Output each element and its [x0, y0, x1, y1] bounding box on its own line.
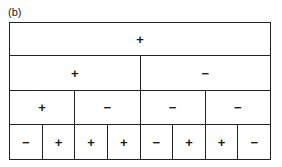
sign-tree-table: + + − + − − − − + + + − + + −: [9, 22, 271, 160]
level-2-cell: −: [75, 91, 140, 124]
level-3-cell: −: [238, 125, 270, 159]
level-3-cell: +: [43, 125, 76, 159]
level-2-cell: +: [10, 91, 75, 124]
level-3-cell: −: [141, 125, 174, 159]
level-2-row: + − − −: [10, 91, 270, 125]
level-3-cell: +: [206, 125, 239, 159]
level-3-cell: −: [10, 125, 43, 159]
figure-label: (b): [8, 6, 21, 18]
level-0-cell: +: [10, 23, 270, 55]
level-2-cell: −: [141, 91, 206, 124]
level-1-cell: +: [10, 56, 141, 90]
level-1-cell: −: [141, 56, 271, 90]
level-3-row: − + + + − + + −: [10, 125, 270, 159]
level-0-row: +: [10, 23, 270, 56]
level-1-row: + −: [10, 56, 270, 91]
level-3-cell: +: [173, 125, 206, 159]
level-3-cell: +: [108, 125, 141, 159]
level-2-cell: −: [206, 91, 270, 124]
level-3-cell: +: [75, 125, 108, 159]
